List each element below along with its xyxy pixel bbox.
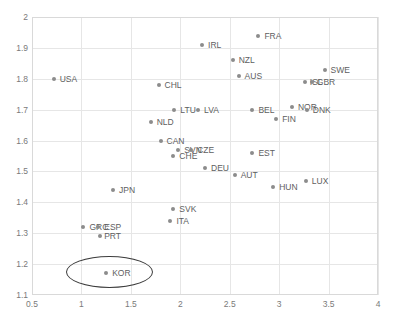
data-point-marker[interactable] [196, 108, 200, 112]
data-point-marker[interactable] [303, 80, 307, 84]
x-axis-tick-label: 2 [178, 299, 183, 309]
x-axis-tick-label: 3 [277, 299, 282, 309]
data-point-label: FRA [264, 31, 281, 41]
y-axis-tick-label: 1.5 [16, 166, 28, 176]
y-axis-tick-label: 1.3 [16, 228, 28, 238]
data-point-label: CAN [167, 136, 185, 146]
data-point-label: IRL [208, 40, 221, 50]
x-axis: 0.511.522.533.54 [32, 299, 378, 315]
data-point-marker[interactable] [233, 173, 237, 177]
data-point-label: SWE [331, 65, 350, 75]
plot-frame [32, 17, 378, 295]
data-point-marker[interactable] [271, 185, 275, 189]
gridline-horizontal [32, 171, 378, 172]
data-point-label: LUX [312, 176, 329, 186]
y-axis-tick-label: 1.6 [16, 136, 28, 146]
x-axis-tick-label: 0.5 [26, 299, 38, 309]
gridline-horizontal [32, 48, 378, 49]
x-axis-tick-label: 3.5 [323, 299, 335, 309]
data-point-marker[interactable] [171, 207, 175, 211]
data-point-label: LTU [180, 105, 195, 115]
gridline-horizontal [32, 233, 378, 234]
data-point-marker[interactable] [231, 58, 235, 62]
data-point-marker[interactable] [111, 188, 115, 192]
data-point-marker[interactable] [157, 83, 161, 87]
data-point-marker[interactable] [172, 108, 176, 112]
data-point-label: PRT [104, 231, 121, 241]
data-point-marker[interactable] [237, 74, 241, 78]
y-axis-tick-label: 1.9 [16, 43, 28, 53]
y-axis-tick-label: 1.4 [16, 197, 28, 207]
y-axis-tick-label: 1.8 [16, 74, 28, 84]
data-point-marker[interactable] [168, 219, 172, 223]
data-point-label: CHL [165, 80, 182, 90]
data-point-label: GBR [317, 77, 335, 87]
data-point-marker[interactable] [274, 117, 278, 121]
data-point-marker[interactable] [256, 34, 260, 38]
data-point-marker[interactable] [81, 225, 85, 229]
gridline-horizontal [32, 141, 378, 142]
data-point-marker[interactable] [323, 68, 327, 72]
data-point-marker[interactable] [149, 120, 153, 124]
data-point-marker[interactable] [52, 77, 56, 81]
data-point-marker[interactable] [159, 139, 163, 143]
x-axis-tick-label: 1 [79, 299, 84, 309]
data-point-marker[interactable] [171, 154, 175, 158]
data-point-label: HUN [279, 182, 297, 192]
x-axis-tick-label: 4 [376, 299, 381, 309]
data-point-label: ITA [176, 216, 189, 226]
gridline-vertical [131, 17, 132, 295]
y-axis-tick-label: 1.7 [16, 105, 28, 115]
data-point-label: CZE [197, 145, 214, 155]
gridline-horizontal [32, 202, 378, 203]
data-point-label: JPN [119, 185, 135, 195]
y-axis-tick-label: 1.2 [16, 259, 28, 269]
kor-highlight-ellipse [66, 256, 153, 288]
data-point-label: SVK [179, 204, 196, 214]
gridline-vertical [329, 17, 330, 295]
data-point-marker[interactable] [290, 105, 294, 109]
data-point-marker[interactable] [305, 108, 309, 112]
scatter-chart: 1.11.21.31.41.51.61.71.81.92 0.511.522.5… [0, 0, 395, 329]
gridline-vertical [279, 17, 280, 295]
data-point-label: BEL [258, 105, 274, 115]
data-point-label: AUS [245, 71, 262, 81]
data-point-marker[interactable] [310, 80, 314, 84]
data-point-label: AUT [241, 170, 258, 180]
data-point-label: DEU [211, 163, 229, 173]
data-point-label: EST [258, 148, 275, 158]
data-point-label: USA [60, 74, 77, 84]
gridline-vertical [81, 17, 82, 295]
data-point-label: NZL [239, 55, 255, 65]
x-axis-tick-label: 1.5 [125, 299, 137, 309]
data-point-label: NLD [157, 117, 174, 127]
data-point-marker[interactable] [200, 43, 204, 47]
data-point-marker[interactable] [250, 151, 254, 155]
gridline-vertical [378, 17, 379, 295]
data-point-label: LVA [204, 105, 219, 115]
gridline-horizontal [32, 17, 378, 18]
plot-area: USACHLIRLFRANZLSWEAUSISLGBRLTULVABELNORD… [32, 17, 378, 295]
data-point-marker[interactable] [304, 179, 308, 183]
data-point-marker[interactable] [98, 234, 102, 238]
data-point-label: DNK [313, 105, 331, 115]
y-axis: 1.11.21.31.41.51.61.71.81.92 [0, 17, 28, 295]
data-point-marker[interactable] [96, 225, 100, 229]
data-point-marker[interactable] [250, 108, 254, 112]
y-axis-tick-label: 2 [23, 12, 28, 22]
data-point-marker[interactable] [203, 166, 207, 170]
x-axis-tick-label: 2.5 [224, 299, 236, 309]
data-point-label: CHE [179, 151, 197, 161]
data-point-label: FIN [282, 114, 296, 124]
